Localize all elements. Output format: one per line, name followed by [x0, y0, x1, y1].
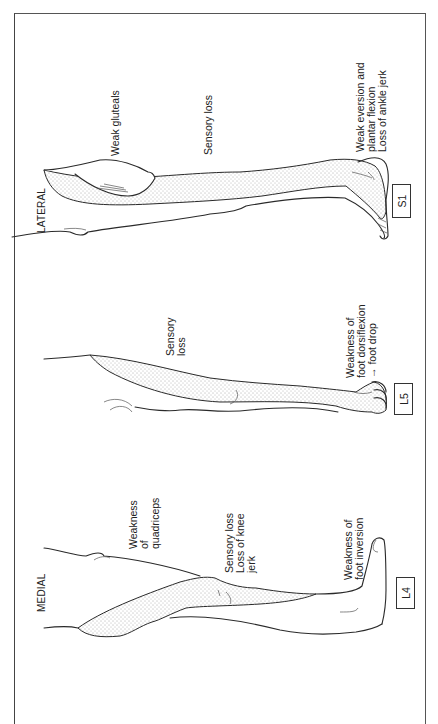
- l4-thigh-outline: [44, 548, 200, 576]
- lateral-leg-s1: [12, 158, 388, 239]
- annotation-s1-sensory-loss: Sensory loss: [203, 95, 214, 155]
- root-label-s1: S1: [392, 184, 411, 218]
- leg-l5: [44, 355, 387, 413]
- view-label-lateral: LATERAL: [36, 188, 47, 233]
- root-label-l4: L4: [396, 577, 415, 609]
- annotation-knee-jerk: Sensory loss Loss of knee jerk: [224, 513, 257, 573]
- root-label-l5: L5: [394, 383, 413, 415]
- view-label-medial: MEDIAL: [36, 574, 47, 612]
- annotation-quadriceps: Weakness of quadriceps: [128, 498, 161, 549]
- medial-leg-l4: [44, 538, 386, 637]
- annotation-weak-gluteals: Weak gluteals: [110, 90, 121, 156]
- annotation-s1-motor: Weak eversion and plantar flexion Loss o…: [355, 62, 388, 152]
- l5-sensory-loss-region: [90, 355, 387, 413]
- l4-sensory-loss-region: [78, 577, 316, 637]
- l5-back-outline: [135, 407, 338, 412]
- annotation-l5-motor: Weakness of foot dorsiflexion → foot dro…: [345, 304, 378, 378]
- s1-front-outline: [12, 197, 385, 238]
- annotation-l5-sensory-loss: Sensory loss: [165, 317, 187, 356]
- annotation-foot-inversion: Weakness of foot inversion: [343, 518, 365, 580]
